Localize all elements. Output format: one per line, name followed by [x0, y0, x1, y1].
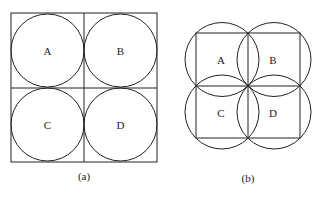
figure-a: [11, 13, 157, 162]
label-a-b: A: [217, 54, 225, 66]
figure-b: [185, 23, 311, 150]
label-d-a: D: [117, 119, 125, 131]
label-d-b: D: [269, 107, 277, 119]
caption-a: (a): [78, 170, 91, 183]
label-b-a: B: [117, 45, 124, 57]
caption-b: (b): [242, 172, 255, 185]
label-c-b: C: [217, 107, 224, 119]
label-b-b: B: [269, 54, 276, 66]
label-a-a: A: [44, 45, 52, 57]
diagram-canvas: A B C D (a) A B C D (b): [0, 0, 318, 197]
label-c-a: C: [44, 119, 51, 131]
